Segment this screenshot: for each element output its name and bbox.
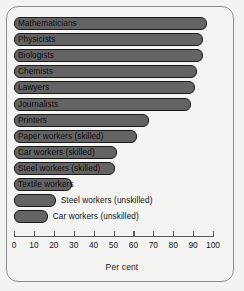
bar-row: Printers <box>14 114 149 127</box>
bar-category-label: Paper workers (skilled) <box>18 130 104 143</box>
x-axis-tick-label: 100 <box>206 240 220 250</box>
chart-screenshot: Per cent MathematiciansPhysicistsBiologi… <box>0 0 244 291</box>
x-axis-tick-label: 50 <box>109 240 118 250</box>
x-axis-tick <box>133 231 134 237</box>
x-axis-tick-label: 40 <box>89 240 98 250</box>
bar-category-label: Car workers (skilled) <box>18 146 95 159</box>
x-axis-tick-label: 90 <box>188 240 197 250</box>
x-axis-tick-label: 10 <box>29 240 38 250</box>
bar-category-label: Biologists <box>18 49 54 62</box>
x-axis-tick-label: 30 <box>69 240 78 250</box>
bar-row <box>14 210 48 223</box>
bar-row: Lawyers <box>14 81 195 94</box>
bar-row <box>14 194 56 207</box>
bar <box>14 194 56 207</box>
bar-row: Textile workers <box>14 178 72 191</box>
bar-category-label: Textile workers <box>18 178 74 191</box>
bar-category-label: Physicists <box>18 33 55 46</box>
bar-category-label: Printers <box>18 114 47 127</box>
bar-category-label: Mathematicians <box>18 17 77 30</box>
x-axis-tick <box>173 231 174 237</box>
bar-row: Chemists <box>14 65 197 78</box>
bar-category-label: Steel workers (unskilled) <box>61 194 153 207</box>
bar-category-label: Car workers (unskilled) <box>53 210 139 223</box>
x-axis-tick <box>14 231 15 237</box>
x-axis-tick <box>74 231 75 237</box>
bar-row: Mathematicians <box>14 17 207 30</box>
bar-category-label: Lawyers <box>18 81 49 94</box>
bar-category-label: Steel workers (skilled) <box>18 162 100 175</box>
x-axis-title: Per cent <box>0 262 244 272</box>
bar-row: Physicists <box>14 33 203 46</box>
x-axis-tick-label: 70 <box>149 240 158 250</box>
x-axis-tick-label: 20 <box>49 240 58 250</box>
x-axis-tick <box>193 231 194 237</box>
x-axis-tick <box>94 231 95 237</box>
bar-row: Car workers (skilled) <box>14 146 117 159</box>
bar-category-label: Journalists <box>18 98 58 111</box>
bar-row: Journalists <box>14 98 191 111</box>
bar-row: Steel workers (skilled) <box>14 162 115 175</box>
x-axis-tick <box>153 231 154 237</box>
x-axis-tick-label: 80 <box>169 240 178 250</box>
x-axis-tick <box>114 231 115 237</box>
x-axis-tick-label: 60 <box>129 240 138 250</box>
x-axis-tick <box>34 231 35 237</box>
bar-row: Paper workers (skilled) <box>14 130 137 143</box>
x-axis-tick-label: 0 <box>12 240 17 250</box>
bar <box>14 210 48 223</box>
chart-plot-area: Per cent MathematiciansPhysicistsBiologi… <box>0 0 244 291</box>
bar-category-label: Chemists <box>18 65 53 78</box>
x-axis-tick <box>54 231 55 237</box>
bar-row: Biologists <box>14 49 203 62</box>
x-axis-tick <box>213 231 214 237</box>
